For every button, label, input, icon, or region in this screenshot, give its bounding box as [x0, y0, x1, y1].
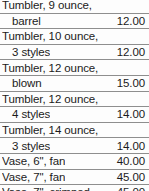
item-name: Tumbler, 12 ounce, [2, 93, 98, 105]
item-price: 40.00 [111, 155, 146, 167]
table-row[interactable]: Tumbler, 12 ounce, [0, 60, 149, 76]
item-name: Vase, 7", fan [2, 171, 65, 183]
item-name: Tumbler, 14 ounce, [2, 124, 98, 136]
table-row[interactable]: Vase, 7", crimped45.00 [0, 185, 149, 191]
table-row[interactable]: Vase, 7", fan45.00 [0, 170, 149, 186]
item-name: Tumbler, 9 ounce, [2, 0, 92, 11]
table-row-continuation[interactable]: 3 styles14.00 [0, 138, 149, 154]
item-variant: 3 styles [2, 140, 50, 152]
product-price-list-table: Tumbler, 9 ounce,barrel12.00Tumbler, 10 … [0, 0, 149, 189]
item-variant: blown [2, 77, 42, 89]
item-price: 45.00 [111, 186, 146, 191]
item-price: 12.00 [111, 46, 146, 58]
table-row[interactable]: Tumbler, 9 ounce, [0, 0, 149, 14]
item-price: 14.00 [111, 108, 146, 120]
item-name: Vase, 6", fan [2, 155, 65, 167]
table-row-continuation[interactable]: 4 styles14.00 [0, 107, 149, 123]
item-name: Tumbler, 10 ounce, [2, 30, 98, 42]
table-row[interactable]: Tumbler, 14 ounce, [0, 123, 149, 139]
item-name: Vase, 7", crimped [2, 186, 90, 191]
table-row[interactable]: Vase, 6", fan40.00 [0, 154, 149, 170]
item-price: 12.00 [111, 15, 146, 27]
item-price: 14.00 [111, 140, 146, 152]
item-variant: barrel [2, 15, 41, 27]
table-row-continuation[interactable]: blown15.00 [0, 76, 149, 92]
table-row[interactable]: Tumbler, 12 ounce, [0, 92, 149, 108]
item-variant: 3 styles [2, 46, 50, 58]
item-price: 45.00 [111, 171, 146, 183]
item-variant: 4 styles [2, 108, 50, 120]
item-name: Tumbler, 12 ounce, [2, 62, 98, 74]
table-row-continuation[interactable]: 3 styles12.00 [0, 45, 149, 61]
item-price: 15.00 [111, 77, 146, 89]
table-row[interactable]: Tumbler, 10 ounce, [0, 29, 149, 45]
table-row-continuation[interactable]: barrel12.00 [0, 14, 149, 30]
